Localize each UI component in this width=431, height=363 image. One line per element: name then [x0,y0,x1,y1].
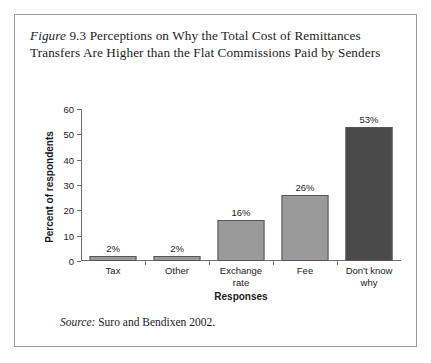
y-tick-label: 0 [52,256,74,267]
y-tick-label: 60 [52,104,74,115]
y-tick-mark [77,134,81,135]
bar-value-label: 2% [170,243,184,254]
bars-layer: 2%2%16%26%53% [81,109,401,261]
source-text: Suro and Bendixen 2002. [98,316,215,328]
bar-slot: 2% [81,109,145,261]
y-tick-mark [77,185,81,186]
y-tick-label: 40 [52,154,74,165]
source-label: Source: [60,316,95,328]
bar[interactable] [218,220,265,261]
y-tick-mark [77,109,81,110]
y-tick-mark [77,236,81,237]
bar[interactable] [154,256,201,261]
figure-number: 9.3 [69,28,86,43]
x-tick-label-line: rate [201,277,281,289]
bar-slot: 26% [273,109,337,261]
x-tick-label-line: Don't know [329,265,409,277]
bar-slot: 16% [209,109,273,261]
x-tick-label: Don't knowwhy [329,265,409,288]
y-tick-label: 20 [52,205,74,216]
y-tick-label: 50 [52,129,74,140]
y-tick-label: 10 [52,230,74,241]
figure-title: Figure 9.3 Perceptions on Why the Total … [30,28,398,61]
bar-chart: Percent of respondents 0102030405060 2%2… [30,91,402,303]
bar-slot: 2% [145,109,209,261]
bar-value-label: 53% [359,114,378,125]
figure-frame: Figure 9.3 Perceptions on Why the Total … [14,14,417,347]
x-axis-tick-labels: TaxOtherExchangerateFeeDon't knowwhy [81,265,401,293]
bar-value-label: 26% [295,182,314,193]
bar[interactable] [346,127,393,261]
y-tick-mark [77,160,81,161]
bar-slot: 53% [337,109,401,261]
bar[interactable] [282,195,329,261]
figure-label-word: Figure [30,28,66,43]
bar-value-label: 2% [106,243,120,254]
y-tick-mark [77,210,81,211]
source-note: Source: Suro and Bendixen 2002. [60,316,215,328]
bar[interactable] [90,256,137,261]
bar-value-label: 16% [231,207,250,218]
y-tick-label: 30 [52,180,74,191]
x-tick-label-line: why [329,277,409,289]
y-tick-mark [77,261,81,262]
x-axis-title: Responses [81,291,401,302]
plot-area: 2%2%16%26%53% [81,109,401,261]
y-axis-tick-labels: 0102030405060 [52,109,74,261]
